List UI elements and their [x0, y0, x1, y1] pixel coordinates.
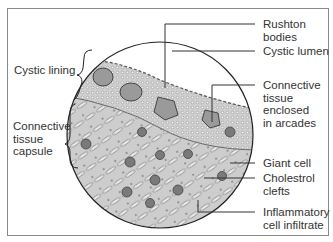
- label-cystic-lumen: Cystic lumen: [263, 45, 329, 58]
- label-cholestrol-clefts: Cholestrol clefts: [263, 172, 315, 197]
- label-inflammatory-infiltrate: Inflammatory cell infiltrate: [263, 206, 329, 231]
- tissue-section: [60, 40, 260, 240]
- label-cystic-lining: Cystic lining: [14, 64, 75, 77]
- label-rushton-bodies: Rushton bodies: [263, 18, 306, 43]
- label-connective-tissue-capsule: Connective tissue capsule: [13, 120, 71, 158]
- label-connective-tissue-arcades: Connective tissue enclosed in arcades: [263, 79, 321, 129]
- label-giant-cell: Giant cell: [263, 157, 311, 170]
